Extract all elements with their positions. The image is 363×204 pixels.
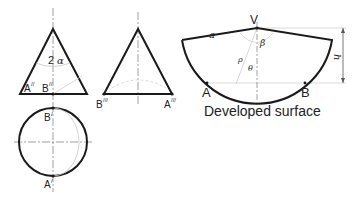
rho-label: ρ <box>237 55 243 64</box>
side-point-a-label: A <box>164 99 171 110</box>
vertex-label: V <box>250 13 258 27</box>
developed-point-b-label: B <box>301 85 310 100</box>
side-point-a-dot <box>170 92 173 95</box>
side-point-a-sup: /// <box>171 97 176 103</box>
side-point-b-dot <box>102 92 105 95</box>
h-arrow-bottom <box>341 78 345 83</box>
beta-label: β <box>259 38 265 48</box>
side-view: B /// A /// <box>96 12 176 110</box>
slant-label: a <box>209 29 215 40</box>
developed-point-b-dot <box>304 82 307 85</box>
theta-label: θ <box>248 64 253 73</box>
side-construction-arc <box>112 80 166 88</box>
alpha-label: α <box>57 55 64 66</box>
front-point-b-label: B <box>42 83 49 94</box>
side-point-b-label: B <box>96 99 103 110</box>
top-point-b-dot <box>51 106 54 109</box>
side-point-b-sup: /// <box>103 97 108 103</box>
height-label: h <box>332 54 343 60</box>
developed-surface: V a β ρ θ h A B Developed surface <box>182 13 346 119</box>
developed-point-a-dot <box>206 82 209 85</box>
top-point-a-label: A <box>44 179 51 190</box>
front-point-b-sup: // <box>49 81 53 87</box>
h-arrow-top <box>341 28 345 33</box>
front-point-a-sup: // <box>31 81 35 87</box>
front-point-b-dot <box>51 92 54 95</box>
developed-point-a-label: A <box>202 85 211 100</box>
top-view: B / A / <box>14 104 92 192</box>
front-view: 2 α A // B // <box>20 8 87 104</box>
developed-surface-title: Developed surface <box>204 103 321 119</box>
top-point-b-label: B <box>44 112 51 123</box>
cone-development-drawing: 2 α A // B // B /// A /// B / A / <box>0 0 363 204</box>
beta-arc <box>240 33 273 43</box>
apex-angle-label: 2 <box>48 54 54 66</box>
front-point-a-label: A <box>24 83 31 94</box>
front-construction-line <box>53 76 82 94</box>
